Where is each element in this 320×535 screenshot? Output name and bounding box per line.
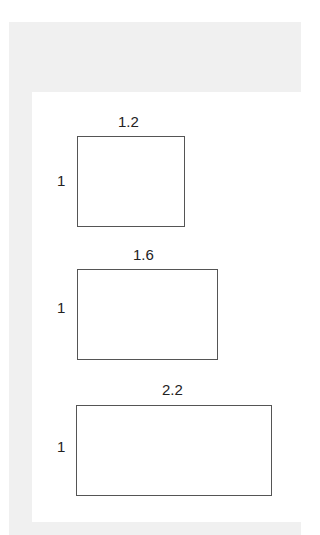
width-label-3: 2.2 [162, 382, 183, 397]
width-label-1: 1.2 [118, 114, 139, 129]
rectangle-2-2-by-1 [76, 405, 272, 496]
width-label-2: 1.6 [133, 247, 154, 262]
height-label-2: 1 [57, 300, 65, 315]
rectangle-1-2-by-1 [77, 136, 185, 227]
height-label-1: 1 [57, 173, 65, 188]
height-label-3: 1 [57, 439, 65, 454]
rectangle-1-6-by-1 [77, 269, 218, 360]
